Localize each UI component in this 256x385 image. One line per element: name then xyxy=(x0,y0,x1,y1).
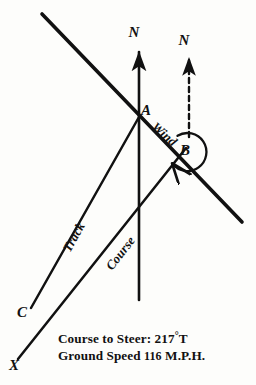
caption-course-suffix: T xyxy=(179,331,188,346)
caption-ground-speed: Ground Speed 116 M.P.H. xyxy=(58,347,254,365)
wind-triangle-figure: A B C X N N Wind Track Course xyxy=(0,0,256,385)
course-segment-label: Course xyxy=(103,233,139,273)
caption-speed-suffix: M.P.H. xyxy=(162,348,205,363)
point-label-b: B xyxy=(179,142,190,158)
point-label-a: A xyxy=(140,102,151,118)
caption-speed-prefix: Ground Speed xyxy=(58,348,144,363)
north-label-dashed: N xyxy=(178,32,191,48)
caption-course-value: 217 xyxy=(155,331,175,346)
track-segment-label: Track xyxy=(60,219,89,254)
figure-caption: Course to Steer: 217°T Ground Speed 116 … xyxy=(58,330,254,365)
caption-course-to-steer: Course to Steer: 217°T xyxy=(58,330,254,347)
course-arrowhead xyxy=(117,148,186,235)
course-line xyxy=(18,148,186,359)
point-label-x: X xyxy=(8,357,20,373)
track-line xyxy=(31,117,139,308)
point-label-c: C xyxy=(17,304,28,320)
caption-course-prefix: Course to Steer: xyxy=(58,331,155,346)
diagram-canvas: A B C X N N Wind Track Course Course to … xyxy=(0,0,256,385)
wind-segment-label: Wind xyxy=(149,119,181,149)
caption-speed-value: 116 xyxy=(144,349,162,363)
wind-line-diagonal xyxy=(42,14,242,222)
north-label-solid: N xyxy=(128,24,141,40)
